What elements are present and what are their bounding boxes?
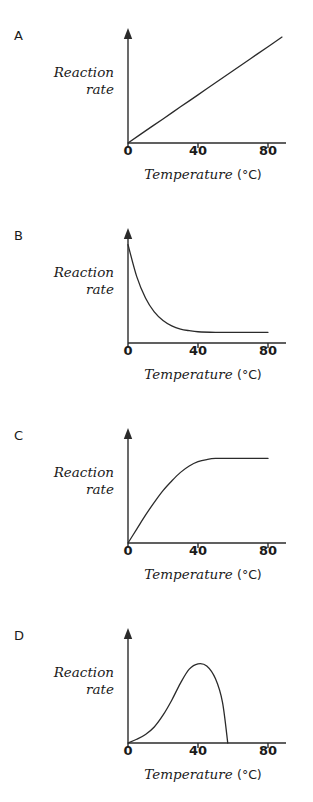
data-curve-a [128,37,282,143]
x-tick-label-80: 80 [255,543,281,558]
x-tick-label-80: 80 [255,343,281,358]
x-axis-label-text: Temperature [144,566,232,582]
y-axis-label-line1: Reaction [36,64,114,81]
y-axis-label-line2: rate [36,681,114,698]
x-tick-label-40: 40 [185,143,211,158]
x-tick-label-40: 40 [185,743,211,758]
chart-panel-d: DReactionrate04080Temperature (°C) [0,600,313,800]
x-axis-label-text: Temperature [144,166,232,182]
x-tick-label-0: 0 [115,743,141,758]
y-axis-label-line1: Reaction [36,664,114,681]
y-axis-label: Reactionrate [36,64,114,98]
chart-panel-a: AReactionrate04080Temperature (°C) [0,0,313,200]
data-curve-c [128,458,268,543]
y-axis-arrowhead-icon [124,228,132,239]
y-axis-arrowhead-icon [124,628,132,639]
x-axis-label-unit: (°C) [237,567,262,582]
y-axis-arrowhead-icon [124,428,132,439]
x-tick-label-80: 80 [255,143,281,158]
y-axis-label: Reactionrate [36,264,114,298]
chart-panel-b: BReactionrate04080Temperature (°C) [0,200,313,400]
y-axis-label: Reactionrate [36,464,114,498]
chart-panel-c: CReactionrate04080Temperature (°C) [0,400,313,600]
y-axis-label-line2: rate [36,481,114,498]
data-curve-d [128,664,228,743]
data-curve-b [128,245,268,333]
x-axis-label-text: Temperature [144,766,232,782]
x-tick-label-40: 40 [185,343,211,358]
x-tick-label-0: 0 [115,543,141,558]
x-tick-label-40: 40 [185,543,211,558]
y-axis-label: Reactionrate [36,664,114,698]
y-axis-arrowhead-icon [124,28,132,39]
x-axis-label-text: Temperature [144,366,232,382]
y-axis-label-line1: Reaction [36,464,114,481]
x-axis-label-unit: (°C) [237,167,262,182]
x-axis-label-unit: (°C) [237,767,262,782]
y-axis-label-line1: Reaction [36,264,114,281]
x-axis-label: Temperature (°C) [118,566,288,582]
x-axis-label-unit: (°C) [237,367,262,382]
x-tick-label-0: 0 [115,343,141,358]
reaction-rate-figure: AReactionrate04080Temperature (°C)BReact… [0,0,313,800]
y-axis-label-line2: rate [36,281,114,298]
y-axis-label-line2: rate [36,81,114,98]
x-axis-label: Temperature (°C) [118,766,288,782]
x-axis-label: Temperature (°C) [118,166,288,182]
x-axis-label: Temperature (°C) [118,366,288,382]
x-tick-label-80: 80 [255,743,281,758]
x-tick-label-0: 0 [115,143,141,158]
